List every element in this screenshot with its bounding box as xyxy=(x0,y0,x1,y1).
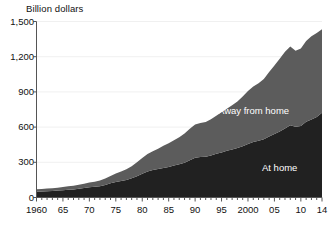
x-tick-label: 70 xyxy=(84,205,95,215)
series-label-away-from-home: Away from home xyxy=(218,106,289,116)
x-tick-label: 2000 xyxy=(237,205,258,215)
x-tick-label: 14 xyxy=(317,205,328,215)
x-tick-label: 75 xyxy=(111,205,122,215)
chart-container: Billion dollars 03006009001,2001,500 196… xyxy=(0,0,336,227)
x-tick-label: 95 xyxy=(216,205,227,215)
x-tick-label: 10 xyxy=(296,205,307,215)
x-tick-label: 1960 xyxy=(26,205,47,215)
x-tick-label: 65 xyxy=(58,205,69,215)
series-label-at-home: At home xyxy=(262,163,297,173)
x-tick-label: 90 xyxy=(190,205,201,215)
x-tick-label: 05 xyxy=(269,205,280,215)
x-tick-label: 80 xyxy=(137,205,148,215)
x-tick-label: 85 xyxy=(163,205,174,215)
